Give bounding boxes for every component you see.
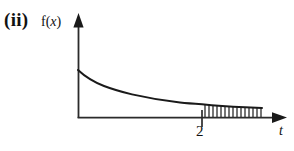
y-axis-label-suffix: ) — [57, 14, 62, 29]
x-axis-label: t — [279, 124, 283, 138]
y-axis-label: f(x) — [41, 15, 61, 29]
figure-container: (ii) f(x) t 2 — [0, 0, 294, 151]
y-axis-label-prefix: f( — [41, 14, 50, 29]
x-tick-label-2: 2 — [196, 124, 204, 139]
part-label: (ii) — [4, 10, 28, 29]
